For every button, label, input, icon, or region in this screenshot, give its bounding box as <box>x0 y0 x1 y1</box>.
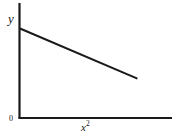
y-axis-label: y <box>8 12 14 25</box>
data-series-group <box>20 28 137 78</box>
x-axis-label-exponent: 2 <box>86 119 90 128</box>
plot-canvas <box>0 0 179 137</box>
data-line-series-0 <box>20 28 137 78</box>
origin-label: 0 <box>9 115 13 123</box>
chart-figure: y 0 x2 <box>0 0 179 137</box>
x-axis-label: x2 <box>81 120 90 133</box>
